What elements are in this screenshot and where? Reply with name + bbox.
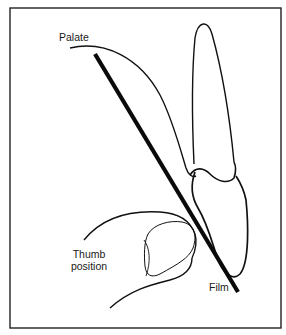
diagram-canvas: Palate Thumb position Film xyxy=(0,0,286,335)
thumbnail xyxy=(144,222,194,276)
thumb-outline-lower xyxy=(110,258,192,308)
film-line xyxy=(95,54,238,292)
thumb-label-line2: position xyxy=(66,260,112,272)
thumb-position-label: Thumb position xyxy=(66,248,112,272)
palate-curve xyxy=(70,46,196,176)
frame-border xyxy=(10,8,281,328)
tooth-root xyxy=(193,24,234,164)
diagram-drawing xyxy=(0,0,286,335)
tooth-cej xyxy=(190,162,236,181)
film-label: Film xyxy=(209,281,229,293)
palate-label: Palate xyxy=(59,31,89,43)
thumb-label-line1: Thumb xyxy=(66,248,112,260)
